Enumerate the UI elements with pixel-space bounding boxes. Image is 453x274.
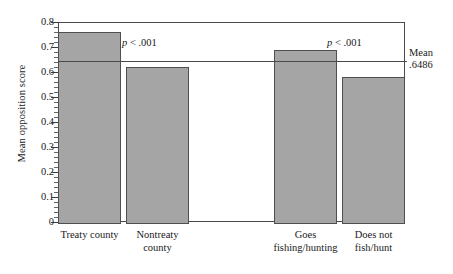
bar-goes-fishing <box>274 50 337 224</box>
bar-nontreaty-county <box>126 67 189 224</box>
bar-chart: Mean opposition score 0.8 0.7 0.6 0.5 0.… <box>0 0 453 274</box>
mean-label-value: .6486 <box>409 59 433 72</box>
x-category-label-does-not-fish: Does not fish/hunt <box>324 228 423 254</box>
y-tick-major <box>51 47 58 48</box>
mean-label-word: Mean <box>409 47 433 60</box>
p-value-text: < .001 <box>332 37 362 48</box>
y-tick-major <box>51 147 58 148</box>
bar-does-not-fish <box>342 77 405 224</box>
mean-reference-label: Mean .6486 <box>409 47 433 72</box>
plot-area <box>58 22 405 222</box>
x-category-label-nontreaty-county: Nontreaty county <box>108 228 207 254</box>
p-value-annotation-group-1: p < .001 <box>122 37 157 48</box>
y-tick-major <box>51 22 58 23</box>
mean-reference-line <box>58 61 407 62</box>
y-tick-major <box>51 222 58 223</box>
y-tick-major <box>51 172 58 173</box>
y-tick-major <box>51 197 58 198</box>
p-value-annotation-group-2: p < .001 <box>327 37 362 48</box>
y-tick-major <box>51 122 58 123</box>
y-axis-ticks <box>48 22 58 222</box>
p-value-text: < .001 <box>127 37 157 48</box>
y-tick-major <box>51 72 58 73</box>
y-tick-major <box>51 97 58 98</box>
